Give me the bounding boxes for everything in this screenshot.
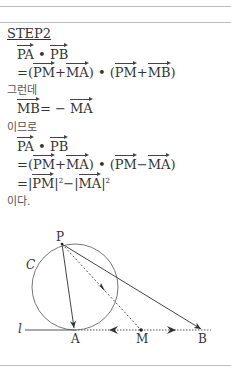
vector-pb-line: [62, 244, 201, 329]
circle-c: [32, 244, 118, 330]
pm-arrowhead: [97, 283, 105, 291]
label-p: P: [56, 230, 64, 244]
label-a: A: [71, 332, 80, 346]
vector-pa-line: [62, 244, 74, 328]
geometry-diagram: [0, 0, 231, 375]
label-l: l: [18, 322, 22, 336]
bottom-rule: [0, 365, 231, 366]
ma-arrowhead: [109, 326, 118, 334]
label-b: B: [198, 332, 207, 346]
label-c: C: [26, 258, 35, 272]
label-m: M: [136, 332, 148, 346]
